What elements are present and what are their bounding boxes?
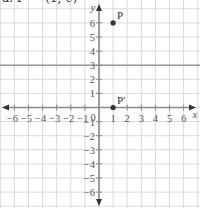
y-tick-label: −3 xyxy=(84,145,95,156)
x-tick-label: 4 xyxy=(153,113,159,124)
point-p-prime xyxy=(111,105,116,110)
x-tick-label: −4 xyxy=(35,113,47,124)
y-tick-label: 6 xyxy=(90,18,95,29)
grid-lines xyxy=(0,0,200,208)
y-tick-label: 4 xyxy=(90,46,96,57)
y-tick-label: 1 xyxy=(90,88,95,99)
y-tick-label: −6 xyxy=(84,187,95,198)
y-tick-label: 5 xyxy=(90,32,95,43)
point-label: P xyxy=(117,9,123,21)
y-axis-arrow-up-icon xyxy=(96,4,102,11)
x-tick-label: −6 xyxy=(7,113,18,124)
x-tick-label: −2 xyxy=(63,113,74,124)
y-axis-label: y xyxy=(90,1,96,13)
point-label: P′ xyxy=(117,94,126,106)
x-tick-label: −5 xyxy=(21,113,32,124)
point-p xyxy=(111,20,116,25)
y-tick-label: 2 xyxy=(90,74,95,85)
tick-labels: −6−5−4−3−2−10123456654321−1−2−3−4−5−6xy xyxy=(7,1,198,198)
y-tick-label: −4 xyxy=(84,159,96,170)
x-axis-label: x xyxy=(192,108,198,120)
x-axis-arrow-left-icon xyxy=(2,105,9,111)
x-tick-label: 5 xyxy=(167,113,172,124)
y-tick-label: −1 xyxy=(84,117,95,128)
x-tick-label: 3 xyxy=(139,113,144,124)
y-tick-label: −5 xyxy=(84,173,95,184)
x-tick-label: −3 xyxy=(49,113,60,124)
y-tick-label: 3 xyxy=(90,60,95,71)
x-tick-label: 2 xyxy=(125,113,130,124)
x-tick-label: 6 xyxy=(181,113,186,124)
x-tick-label: 1 xyxy=(110,113,115,124)
y-tick-label: −2 xyxy=(84,131,95,142)
axes xyxy=(2,4,196,206)
y-axis-arrow-down-icon xyxy=(96,199,102,206)
coordinate-grid: −6−5−4−3−2−10123456654321−1−2−3−4−5−6xy … xyxy=(0,0,200,208)
